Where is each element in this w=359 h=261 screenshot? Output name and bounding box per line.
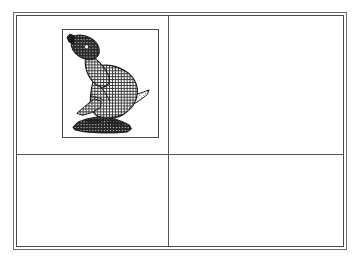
head-shape <box>67 34 99 60</box>
quadrant-cell-bottom-left[interactable] <box>17 155 168 246</box>
rock-base-shape <box>73 117 132 133</box>
seal-illustration-icon <box>65 32 156 135</box>
page-canvas <box>0 0 359 261</box>
quadrant-cell-top-right[interactable] <box>169 16 343 154</box>
picture-canvas <box>65 32 156 135</box>
picture-frame[interactable] <box>62 29 159 138</box>
quadrant-cell-bottom-right[interactable] <box>169 155 343 246</box>
